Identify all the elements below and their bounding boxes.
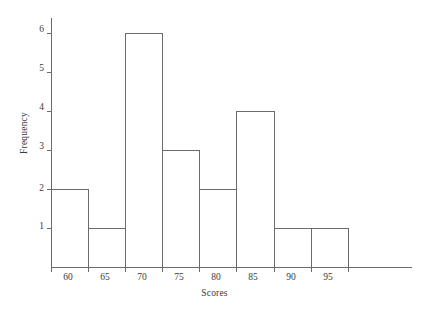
bar-65 bbox=[89, 229, 126, 268]
histogram-bars bbox=[52, 34, 349, 268]
bar-70 bbox=[126, 34, 163, 268]
histogram-chart: Frequency 6 5 4 3 2 1 60 65 70 75 80 85 … bbox=[0, 0, 429, 315]
y-axis-ticks bbox=[47, 34, 52, 229]
bar-80 bbox=[200, 190, 237, 268]
bar-75 bbox=[163, 151, 200, 268]
bar-60 bbox=[52, 190, 89, 268]
bar-95 bbox=[312, 229, 349, 268]
bar-85 bbox=[237, 112, 275, 268]
bar-90 bbox=[275, 229, 312, 268]
plot-area bbox=[0, 0, 429, 315]
